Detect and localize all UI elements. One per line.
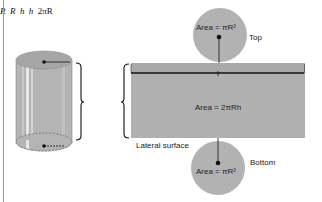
lateral-area-label: Area = 2πRh (195, 103, 241, 112)
net-height-brace (121, 64, 129, 138)
lateral-caption: Lateral surface (136, 141, 189, 150)
top-area-label: Area = πR² (196, 23, 236, 32)
cylinder-height-brace (76, 63, 84, 140)
bottom-caption: Bottom (250, 158, 275, 167)
bottom-area-label: Area = πR² (196, 167, 236, 176)
cylinder-diagram (0, 0, 322, 202)
cylinder (16, 51, 72, 151)
top-caption: Top (249, 33, 262, 42)
